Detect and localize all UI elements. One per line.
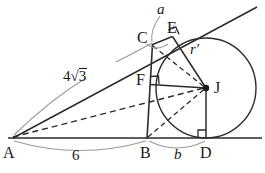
point-label-D: D bbox=[200, 145, 212, 161]
point-label-F: F bbox=[136, 72, 145, 88]
measure-arc-AB bbox=[14, 141, 146, 151]
point-label-A: A bbox=[3, 145, 15, 161]
sqrt-glyph: √ bbox=[71, 69, 79, 84]
root-coefficient: 4 bbox=[63, 68, 71, 84]
geometry-canvas bbox=[0, 0, 265, 173]
root-radicand: 3 bbox=[79, 68, 88, 84]
measure-label-b: b bbox=[174, 147, 182, 162]
point-label-E: E bbox=[167, 20, 177, 36]
measure-label-six: 6 bbox=[72, 148, 80, 163]
geometry-figure: A B D C E F J a b 6 r′ 4√3 bbox=[0, 0, 265, 173]
measure-label-r-prime: r′ bbox=[190, 42, 199, 57]
leader-curve-a bbox=[152, 16, 160, 42]
point-label-B: B bbox=[140, 145, 151, 161]
measure-label-a: a bbox=[157, 2, 165, 17]
point-dot-J bbox=[203, 85, 209, 91]
measure-arc-AC bbox=[14, 78, 86, 135]
point-label-J: J bbox=[214, 80, 220, 96]
segment-BC bbox=[147, 44, 153, 139]
segment-JF bbox=[150, 85, 206, 89]
measure-label-four-root-three: 4√3 bbox=[63, 68, 87, 84]
right-angle-marker-D bbox=[198, 130, 206, 138]
point-label-C: C bbox=[137, 30, 148, 46]
segment-CE bbox=[153, 37, 173, 45]
square-root-icon: √3 bbox=[71, 68, 88, 84]
segment-AJ-dashed bbox=[13, 88, 204, 137]
tangent-line-A bbox=[13, 7, 257, 138]
